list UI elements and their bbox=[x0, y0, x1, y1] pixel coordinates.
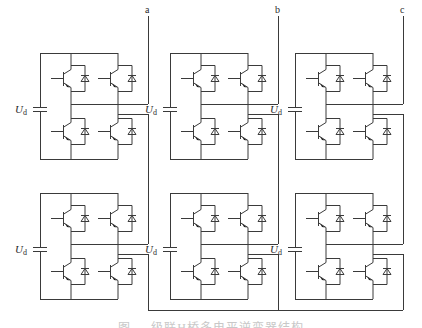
igbt-collector bbox=[110, 193, 118, 215]
igbt-collector bbox=[63, 193, 71, 215]
switch-upper-left bbox=[181, 193, 219, 244]
igbt-collector bbox=[318, 193, 326, 215]
switch-lower-left bbox=[306, 244, 344, 299]
figure-caption: 图 ... 级联H桥多电平逆变器结构 bbox=[0, 318, 422, 328]
switch-upper-left bbox=[306, 53, 344, 104]
igbt-collector bbox=[318, 53, 326, 75]
igbt-collector bbox=[240, 53, 248, 75]
switch-lower-left bbox=[51, 104, 89, 159]
igbt-collector bbox=[365, 244, 373, 268]
h-bridge-cell-c2: Ud bbox=[270, 193, 391, 299]
igbt-collector bbox=[193, 193, 201, 215]
dc-voltage-label: Ud bbox=[145, 243, 157, 257]
switch-upper-left bbox=[181, 53, 219, 104]
dc-voltage-label: Ud bbox=[15, 243, 27, 257]
switch-upper-left bbox=[51, 53, 89, 104]
igbt-collector bbox=[365, 104, 373, 128]
switch-lower-right bbox=[98, 104, 136, 159]
igbt-collector bbox=[63, 104, 71, 128]
igbt-collector bbox=[63, 53, 71, 75]
switch-upper-right bbox=[353, 53, 391, 104]
switch-lower-left bbox=[51, 244, 89, 299]
igbt-collector bbox=[110, 244, 118, 268]
switch-upper-right bbox=[228, 193, 266, 244]
switch-upper-right bbox=[353, 193, 391, 244]
switch-upper-right bbox=[98, 53, 136, 104]
dc-voltage-label: Ud bbox=[15, 103, 27, 117]
igbt-collector bbox=[110, 104, 118, 128]
switch-lower-right bbox=[353, 104, 391, 159]
phase-b-label: b bbox=[275, 4, 280, 15]
igbt-collector bbox=[318, 244, 326, 268]
igbt-collector bbox=[193, 53, 201, 75]
switch-lower-right bbox=[98, 244, 136, 299]
igbt-collector bbox=[365, 53, 373, 75]
phase-a-label: a bbox=[145, 4, 150, 15]
switch-lower-left bbox=[181, 104, 219, 159]
switch-lower-right bbox=[228, 244, 266, 299]
igbt-collector bbox=[240, 193, 248, 215]
switch-upper-left bbox=[51, 193, 89, 244]
igbt-collector bbox=[193, 244, 201, 268]
switch-lower-left bbox=[181, 244, 219, 299]
switch-lower-right bbox=[353, 244, 391, 299]
phase-interconnect: abc bbox=[71, 4, 405, 310]
cascaded-h-bridge-schematic: UdUdUdUdUdUdabc bbox=[0, 0, 422, 328]
phase-c-label: c bbox=[400, 4, 405, 15]
h-bridge-cell-a1: Ud bbox=[15, 53, 136, 159]
igbt-collector bbox=[240, 104, 248, 128]
igbt-collector bbox=[365, 193, 373, 215]
h-bridge-cell-a2: Ud bbox=[15, 193, 136, 299]
igbt-collector bbox=[240, 244, 248, 268]
igbt-collector bbox=[63, 244, 71, 268]
igbt-collector bbox=[318, 104, 326, 128]
switch-upper-left bbox=[306, 193, 344, 244]
h-bridge-cell-b2: Ud bbox=[145, 193, 266, 299]
switch-upper-right bbox=[98, 193, 136, 244]
dc-voltage-label: Ud bbox=[270, 243, 282, 257]
dc-voltage-label: Ud bbox=[145, 103, 157, 117]
switch-upper-right bbox=[228, 53, 266, 104]
igbt-collector bbox=[110, 53, 118, 75]
circuit-diagram: UdUdUdUdUdUdabc bbox=[0, 0, 422, 328]
igbt-collector bbox=[193, 104, 201, 128]
switch-lower-left bbox=[306, 104, 344, 159]
h-bridge-cell-b1: Ud bbox=[145, 53, 266, 159]
switch-lower-right bbox=[228, 104, 266, 159]
h-bridge-cell-c1: Ud bbox=[270, 53, 391, 159]
dc-voltage-label: Ud bbox=[270, 103, 282, 117]
